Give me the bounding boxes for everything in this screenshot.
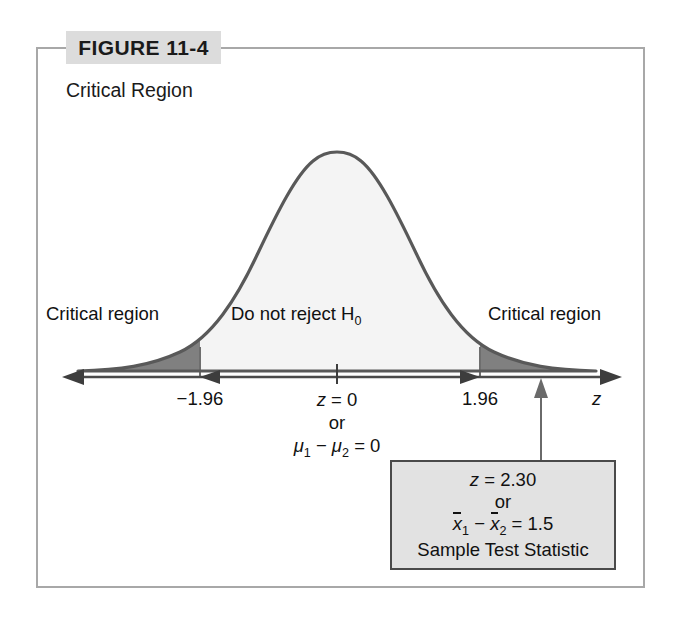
sample-test-statistic-callout: z = 2.30 or x1 − x2 = 1.5 Sample Test St… <box>390 460 616 570</box>
callout-z-symbol: z <box>470 469 479 490</box>
tick-label-positive: 1.96 <box>438 388 522 410</box>
axis-arrow-left <box>62 369 84 385</box>
xbar-value: = 1.5 <box>506 513 553 534</box>
center-annotation: z = 0 or μ1 − μ2 = 0 <box>247 388 427 462</box>
figure-container: FIGURE 11-4 Critical Region <box>0 0 678 628</box>
xbar-minus: − <box>469 513 490 534</box>
xbar-one-symbol: x <box>453 513 462 534</box>
xbar-two-overline <box>491 512 498 514</box>
xbar-one-subscript: 1 <box>462 524 469 538</box>
z-value: = 0 <box>326 389 357 410</box>
mu-two-subscript: 2 <box>342 446 349 460</box>
do-not-reject-area <box>78 152 596 371</box>
tick-label-negative: −1.96 <box>146 388 254 410</box>
mu-one-symbol: μ <box>294 435 304 456</box>
callout-line-xbar: x1 − x2 = 1.5 <box>453 513 553 539</box>
axis-label-z: z <box>592 388 601 410</box>
xbar-one: x <box>453 513 462 535</box>
mu-value: = 0 <box>349 435 380 456</box>
center-line-z: z = 0 <box>247 388 427 411</box>
mu-one-subscript: 1 <box>304 446 311 460</box>
xbar-two-symbol: x <box>490 513 499 534</box>
mu-two-symbol: μ <box>332 435 342 456</box>
callout-line-z: z = 2.30 <box>470 469 536 491</box>
callout-pointer-arrow <box>534 378 548 398</box>
xbar-two: x <box>490 513 499 535</box>
callout-line-title: Sample Test Statistic <box>417 539 588 561</box>
label-do-not-reject: Do not reject H0 <box>231 303 361 328</box>
do-not-reject-text: Do not reject H <box>231 303 354 324</box>
axis-arrow-right <box>600 369 622 385</box>
label-critical-region-left: Critical region <box>46 303 159 325</box>
center-line-or: or <box>247 411 427 434</box>
callout-z-value: = 2.30 <box>479 469 536 490</box>
z-symbol: z <box>317 389 326 410</box>
mu-minus: − <box>311 435 332 456</box>
h-subscript: 0 <box>354 314 361 328</box>
callout-line-or: or <box>495 491 511 513</box>
center-line-mu: μ1 − μ2 = 0 <box>247 434 427 461</box>
xbar-one-overline <box>453 512 460 514</box>
label-critical-region-right: Critical region <box>488 303 601 325</box>
